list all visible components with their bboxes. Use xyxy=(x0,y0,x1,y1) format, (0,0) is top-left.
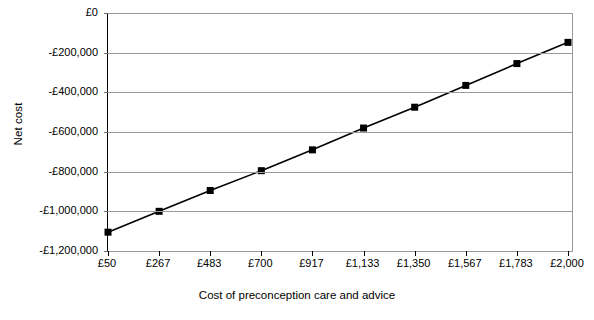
y-tick-label: -£600,000 xyxy=(10,126,98,137)
x-tick-mark xyxy=(210,251,211,256)
y-tick-mark xyxy=(104,172,108,173)
gridline xyxy=(108,92,573,93)
data-point-marker xyxy=(105,229,112,236)
gridline xyxy=(108,211,573,212)
x-tick-mark xyxy=(108,251,109,256)
gridline xyxy=(108,172,573,173)
x-tick-mark xyxy=(261,251,262,256)
x-tick-mark xyxy=(466,251,467,256)
gridline xyxy=(108,53,573,54)
y-tick-mark xyxy=(104,211,108,212)
x-tick-mark xyxy=(415,251,416,256)
data-point-marker xyxy=(309,146,316,153)
data-point-marker xyxy=(462,82,469,89)
data-point-marker xyxy=(513,60,520,67)
plot-area xyxy=(107,13,573,252)
x-axis-title: Cost of preconception care and advice xyxy=(0,289,594,301)
data-point-marker xyxy=(565,39,572,46)
y-tick-label: -£1,000,000 xyxy=(10,205,98,216)
x-tick-mark xyxy=(364,251,365,256)
x-tick-mark xyxy=(517,251,518,256)
y-tick-label: -£1,200,000 xyxy=(10,245,98,256)
data-point-marker xyxy=(207,187,214,194)
x-tick-mark xyxy=(568,251,569,256)
gridline xyxy=(108,132,573,133)
y-tick-mark xyxy=(104,132,108,133)
x-tick-mark xyxy=(159,251,160,256)
x-tick-mark xyxy=(312,251,313,256)
y-tick-label: -£400,000 xyxy=(10,86,98,97)
data-point-marker xyxy=(411,104,418,111)
y-tick-label: -£800,000 xyxy=(10,166,98,177)
line-chart: Net cost £0-£200,000-£400,000-£600,000-£… xyxy=(0,0,594,320)
y-tick-label: -£200,000 xyxy=(10,47,98,58)
y-tick-mark xyxy=(104,92,108,93)
y-tick-label: £0 xyxy=(10,7,98,18)
gridline xyxy=(108,251,573,252)
y-tick-mark xyxy=(104,13,108,14)
series-line xyxy=(108,42,568,232)
data-point-marker xyxy=(258,167,265,174)
y-tick-mark xyxy=(104,53,108,54)
x-axis-tick-labels: £50£267£483£700£917£1,133£1,350£1,567£1,… xyxy=(0,257,594,273)
x-tick-label: £2,000 xyxy=(532,257,594,269)
data-point-marker xyxy=(360,125,367,132)
